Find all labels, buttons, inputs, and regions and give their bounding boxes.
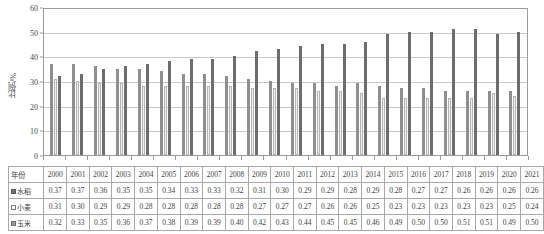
bar-group	[198, 9, 220, 155]
bar-group	[351, 9, 373, 155]
bar-玉米	[277, 49, 280, 155]
bar-水稻	[225, 76, 228, 155]
bar-小麦	[98, 83, 101, 155]
bar-小麦	[382, 98, 385, 155]
x-axis-tick-mark	[153, 156, 154, 160]
table-row: 玉米0.320.330.350.360.370.380.390.390.400.…	[9, 215, 544, 231]
x-axis-tick-mark	[374, 156, 375, 160]
table-value-cell: 0.34	[157, 183, 180, 199]
table-value-cell: 0.44	[294, 215, 317, 231]
bar-小麦	[186, 86, 189, 155]
table-value-cell: 0.32	[225, 183, 248, 199]
table-year-cell: 2012	[316, 167, 339, 183]
legend-swatch-icon	[11, 189, 16, 194]
table-value-cell: 0.29	[316, 183, 339, 199]
table-year-cell: 2006	[180, 167, 203, 183]
bar-小麦	[229, 86, 232, 155]
table-value-cell: 0.37	[44, 183, 67, 199]
bar-group	[482, 9, 504, 155]
table-value-cell: 0.27	[248, 199, 271, 215]
x-axis-tick-mark	[175, 156, 176, 160]
table-value-cell: 0.42	[248, 215, 271, 231]
bar-group	[220, 9, 242, 155]
table-year-cell: 2021	[521, 167, 544, 183]
data-table: 年份20002001200220032004200520062007200820…	[8, 166, 544, 231]
table-year-cell: 2016	[407, 167, 430, 183]
y-axis-tick-label: 50	[30, 28, 38, 37]
bar-小麦	[339, 91, 342, 155]
table-value-cell: 0.25	[498, 199, 521, 215]
bar-group	[373, 9, 395, 155]
legend-swatch-icon	[11, 221, 16, 226]
table-value-cell: 0.26	[339, 199, 362, 215]
bar-水稻	[94, 66, 97, 155]
bar-group	[307, 9, 329, 155]
table-value-cell: 0.45	[316, 215, 339, 231]
table-value-cell: 0.28	[157, 199, 180, 215]
table-value-cell: 0.51	[452, 215, 475, 231]
table-value-cell: 0.26	[316, 199, 339, 215]
x-axis-tick-mark	[286, 156, 287, 160]
table-value-cell: 0.29	[294, 183, 317, 199]
table-value-cell: 0.28	[225, 199, 248, 215]
bar-水稻	[356, 83, 359, 155]
table-year-cell: 2009	[248, 167, 271, 183]
bar-group	[132, 9, 154, 155]
table-year-cell: 2013	[339, 167, 362, 183]
table-value-cell: 0.28	[135, 199, 158, 215]
table-series-label-玉米: 玉米	[9, 215, 44, 231]
x-axis-tick-mark	[528, 156, 529, 160]
table-value-cell: 0.33	[180, 183, 203, 199]
bar-玉米	[211, 59, 214, 155]
table-series-label-小麦: 小麦	[9, 199, 44, 215]
legend-label: 小麦	[17, 204, 31, 212]
table-value-cell: 0.26	[475, 183, 498, 199]
table-year-cell: 2004	[135, 167, 158, 183]
bar-玉米	[452, 29, 455, 155]
x-axis-tick-mark	[484, 156, 485, 160]
table-year-cell: 2000	[44, 167, 67, 183]
y-axis-tick-label: 0	[34, 152, 38, 161]
bar-小麦	[492, 93, 495, 155]
table-year-cell: 2017	[430, 167, 453, 183]
bar-group	[176, 9, 198, 155]
table-value-cell: 0.28	[384, 183, 407, 199]
table-value-cell: 0.27	[294, 199, 317, 215]
bar-水稻	[466, 91, 469, 155]
bar-玉米	[255, 51, 258, 155]
table-value-cell: 0.46	[362, 215, 385, 231]
bar-小麦	[513, 96, 516, 155]
bar-小麦	[426, 98, 429, 155]
bar-玉米	[321, 44, 324, 155]
bar-水稻	[291, 83, 294, 155]
bar-小麦	[54, 79, 57, 155]
table-value-cell: 0.26	[452, 183, 475, 199]
table-value-cell: 0.27	[271, 199, 294, 215]
table-value-cell: 0.28	[180, 199, 203, 215]
table-year-cell: 2010	[271, 167, 294, 183]
table-value-cell: 0.23	[430, 199, 453, 215]
bar-水稻	[444, 91, 447, 155]
table-value-cell: 0.28	[203, 199, 226, 215]
bar-group	[154, 9, 176, 155]
bar-水稻	[203, 74, 206, 155]
bar-水稻	[182, 74, 185, 155]
table-value-cell: 0.23	[475, 199, 498, 215]
table-value-cell: 0.26	[521, 183, 544, 199]
bar-小麦	[273, 88, 276, 155]
bar-玉米	[386, 34, 389, 155]
x-axis-tick-mark	[241, 156, 242, 160]
table-value-cell: 0.39	[180, 215, 203, 231]
y-axis-ticks: 0102030405060	[20, 8, 40, 156]
table-year-cell: 2015	[384, 167, 407, 183]
bar-水稻	[138, 69, 141, 155]
table-series-label-水稻: 水稻	[9, 183, 44, 199]
bar-水稻	[269, 81, 272, 155]
table-value-cell: 0.40	[225, 215, 248, 231]
bar-group	[329, 9, 351, 155]
table-value-cell: 0.38	[157, 215, 180, 231]
table-year-cell: 2019	[475, 167, 498, 183]
bar-小麦	[470, 98, 473, 155]
table-value-cell: 0.50	[521, 215, 544, 231]
bar-水稻	[509, 91, 512, 155]
